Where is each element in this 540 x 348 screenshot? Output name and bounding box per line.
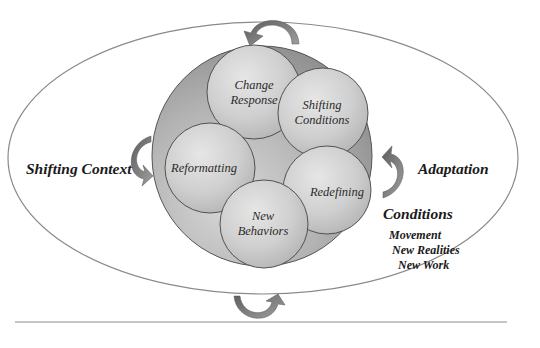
- new-behaviors-line2: Behaviors: [238, 224, 289, 238]
- redefining-label: Redefining: [309, 185, 364, 199]
- conditions-item-movement: Movement: [388, 228, 442, 242]
- diagram-canvas: Change Response Shifting Conditions Rede…: [0, 0, 540, 348]
- change-response-line1: Change: [235, 78, 274, 92]
- shifting-conditions-line1: Shifting: [303, 98, 342, 112]
- shifting-conditions-line2: Conditions: [295, 113, 350, 127]
- conditions-heading: Conditions: [383, 205, 453, 222]
- conditions-item-new-realities: New Realities: [391, 243, 460, 257]
- inner-circle-new-behaviors: New Behaviors: [220, 180, 308, 268]
- bottom-curved-arrow-icon: [234, 294, 285, 318]
- conditions-item-new-work: New Work: [397, 258, 449, 272]
- inner-circle-shifting-conditions: Shifting Conditions: [278, 68, 368, 158]
- reformatting-label: Reformatting: [170, 161, 237, 175]
- new-behaviors-line1: New: [251, 209, 275, 223]
- shifting-context-label: Shifting Context: [26, 160, 132, 177]
- change-response-line2: Response: [229, 93, 278, 107]
- adaptation-label: Adaptation: [417, 160, 489, 177]
